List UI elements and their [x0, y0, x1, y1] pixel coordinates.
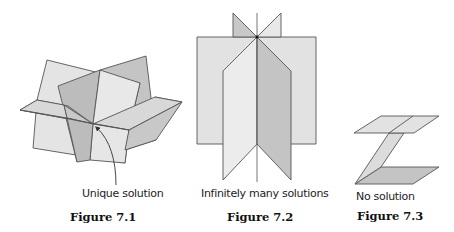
figure-7-2-drawing — [197, 13, 316, 182]
figure-7-3-drawing — [354, 116, 439, 184]
caption-unique-solution: Unique solution — [82, 187, 163, 200]
wing-top-right — [257, 13, 281, 37]
plane-lower-right — [90, 124, 129, 163]
caption-no-solution: No solution — [356, 190, 415, 203]
figure-label-7-1: Figure 7.1 — [70, 210, 136, 224]
caption-infinitely-many-solutions: Infinitely many solutions — [201, 187, 329, 200]
figure-label-7-3: Figure 7.3 — [357, 209, 423, 223]
figure-label-7-2: Figure 7.2 — [227, 210, 293, 224]
wing-top-left — [233, 13, 257, 37]
plane-top — [354, 116, 439, 133]
figure-7-1-drawing — [20, 56, 182, 185]
